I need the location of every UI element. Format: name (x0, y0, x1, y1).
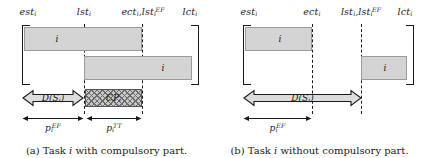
tick-label-est: esti (20, 7, 37, 17)
compulsory-part-label: CPi (106, 93, 121, 103)
duration-arrow: D(Si) (22, 89, 84, 107)
measure-label-ptt: piTT (106, 122, 121, 133)
caption-a: (a) Task i with compulsory part. (0, 145, 213, 156)
tick-label-est: esti (241, 7, 258, 17)
latest-start-bar: i (361, 56, 407, 80)
caption-b: (b) Task i without compulsory part. (213, 145, 426, 156)
measure-label-pef: piEF (270, 122, 286, 133)
tick-label-lst: lsti (77, 7, 91, 17)
time-window-bracket-right (406, 25, 414, 85)
time-window-bracket-right (191, 25, 199, 85)
duration-arrow: D(Si) (243, 89, 362, 107)
bar-label-i: i (162, 63, 165, 73)
tick-label-ect-lst-ef: ecti,lstiEF (121, 7, 164, 17)
bar-label-i: i (279, 34, 282, 44)
earliest-start-bar: i (24, 27, 142, 51)
measure-arrow-ptt: piTT (86, 114, 142, 123)
measure-arrow-pef: piEF (22, 114, 84, 123)
measure-arrow-pef: piEF (243, 114, 312, 123)
panel-a: esti lsti ecti,lstiEF lcti i i D(Si) CPi (0, 0, 213, 158)
bar-label-i: i (384, 63, 387, 73)
figure-container: esti lsti ecti,lstiEF lcti i i D(Si) CPi (0, 0, 426, 158)
latest-start-bar: i (84, 56, 192, 80)
tick-label-lct: lcti (398, 7, 413, 17)
bar-label-i: i (56, 34, 59, 44)
measure-label-pef: piEF (45, 122, 61, 133)
tick-label-lct: lcti (183, 7, 198, 17)
tick-label-lst-lst-ef: lsti,lstiEF (341, 7, 381, 17)
duration-arrow-label: D(Si) (42, 93, 64, 103)
earliest-start-bar: i (245, 27, 312, 51)
compulsory-part-box: CPi (85, 89, 142, 107)
panel-b: esti ecti lsti,lstiEF lcti i i D(Si) (213, 0, 426, 158)
duration-arrow-label: D(Si) (291, 93, 313, 103)
tick-label-ect: ecti (303, 7, 320, 17)
